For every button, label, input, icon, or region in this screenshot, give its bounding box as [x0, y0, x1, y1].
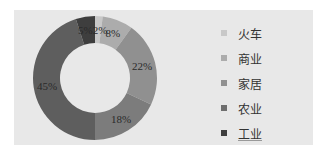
slice-percent-label: 8%	[106, 27, 121, 39]
legend-label: 工业	[238, 125, 262, 142]
legend: 火车 商业 家居 农业 工业	[221, 22, 301, 147]
legend-item-jiaju: 家居	[221, 72, 301, 94]
slice-percent-label: 5%	[78, 24, 93, 36]
chart-area: 2%8%22%18%45%5% 火车 商业 家居 农业 工业	[14, 10, 313, 145]
legend-swatch	[221, 105, 227, 111]
slice-percent-label: 18%	[111, 113, 131, 125]
legend-swatch	[221, 55, 227, 61]
legend-label: 农业	[238, 100, 262, 117]
legend-item-huoche: 火车	[221, 22, 301, 44]
slice-percent-label: 22%	[132, 60, 152, 72]
legend-label: 火车	[238, 25, 262, 42]
donut-chart: 2%8%22%18%45%5%	[30, 13, 160, 143]
legend-item-nongye: 农业	[221, 97, 301, 119]
legend-label: 家居	[238, 75, 262, 92]
slice-percent-label: 45%	[37, 80, 57, 92]
legend-item-gongye: 工业	[221, 122, 301, 144]
legend-swatch	[221, 80, 227, 86]
legend-label: 商业	[238, 50, 262, 67]
legend-swatch	[221, 130, 227, 136]
legend-swatch	[221, 30, 227, 36]
legend-item-shangye: 商业	[221, 47, 301, 69]
